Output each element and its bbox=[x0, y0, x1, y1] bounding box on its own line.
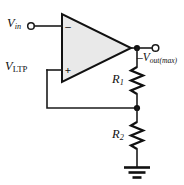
label-r2-subscript: 2 bbox=[120, 133, 124, 142]
ground-symbol bbox=[124, 168, 150, 178]
input-terminal-circle[interactable] bbox=[28, 23, 35, 30]
inverting-input-sign: – bbox=[64, 20, 71, 32]
label-r2: R2 bbox=[112, 128, 124, 141]
output-terminal-circle[interactable] bbox=[152, 45, 159, 52]
label-v-in: Vin bbox=[7, 17, 21, 30]
label-r1-base: R bbox=[112, 72, 120, 86]
label-v-out-max-base: V bbox=[143, 51, 150, 63]
label-v-out-max-subscript: out(max) bbox=[150, 56, 177, 65]
noninverting-input-sign: + bbox=[65, 64, 71, 76]
label-v-ltp-subscript: LTP bbox=[13, 64, 28, 74]
label-v-in-base: V bbox=[7, 16, 15, 30]
resistor-r2-zigzag bbox=[131, 122, 143, 149]
label-v-out-max: –Vout(max) bbox=[137, 52, 177, 64]
label-v-ltp-base: V bbox=[5, 59, 13, 73]
label-r2-base: R bbox=[112, 127, 120, 141]
label-r1: R1 bbox=[112, 73, 124, 86]
opamp-triangle bbox=[62, 14, 131, 82]
label-r1-subscript: 1 bbox=[120, 78, 124, 87]
label-v-in-subscript: in bbox=[15, 22, 21, 31]
resistor-r1-zigzag bbox=[131, 67, 143, 94]
label-v-ltp: VLTP bbox=[5, 60, 27, 73]
circuit-schematic-canvas: – + bbox=[0, 0, 184, 185]
circuit-diagram-figure: – + Vin VLTP –Vout(max) R bbox=[0, 0, 184, 185]
